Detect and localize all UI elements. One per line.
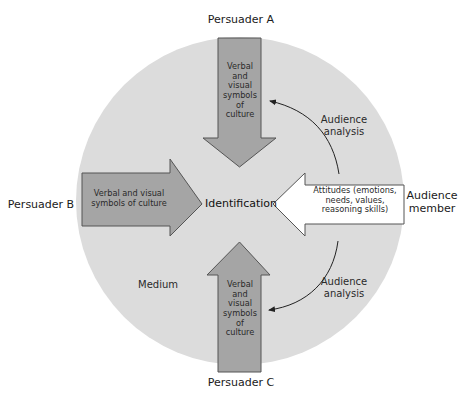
medium-label: Medium xyxy=(128,279,188,291)
persuader-a-arrow-text: Verbal and visual symbols of culture xyxy=(214,62,266,120)
identification-label: Identification xyxy=(196,198,286,211)
audience-analysis-label-bottom: Audience analysis xyxy=(314,276,374,300)
audience-member-label: Audience member xyxy=(402,190,462,216)
audience-analysis-label-top: Audience analysis xyxy=(314,114,374,138)
audience-arrow-text: Attitudes (emotions, needs, values, reas… xyxy=(300,186,410,215)
persuader-c-arrow-text: Verbal and visual symbols of culture xyxy=(214,280,266,338)
persuader-a-label: Persuader A xyxy=(196,14,286,27)
persuader-c-label: Persuader C xyxy=(196,377,286,390)
persuader-b-arrow-text: Verbal and visual symbols of culture xyxy=(84,189,174,208)
persuader-b-label: Persuader B xyxy=(6,199,76,212)
